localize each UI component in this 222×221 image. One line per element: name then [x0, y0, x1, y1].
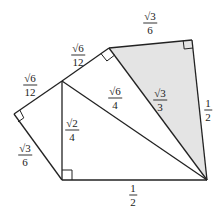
label-AO: 1 2	[129, 183, 137, 208]
right-angle-A	[62, 170, 72, 180]
label-CB: √6 12	[23, 73, 37, 98]
label-DE: √3 6	[143, 11, 157, 36]
segment-CB	[14, 81, 62, 114]
label-DO: √3 3	[153, 88, 167, 113]
label-AB: √2 4	[65, 118, 79, 143]
label-BD: √6 12	[71, 43, 85, 68]
label-AC: √3 6	[18, 143, 32, 168]
right-angle-D	[101, 54, 115, 61]
label-BO: √6 4	[108, 86, 122, 111]
geometry-diagram	[0, 0, 222, 221]
segment-BD	[62, 48, 109, 81]
label-EO: 1 2	[204, 98, 212, 123]
